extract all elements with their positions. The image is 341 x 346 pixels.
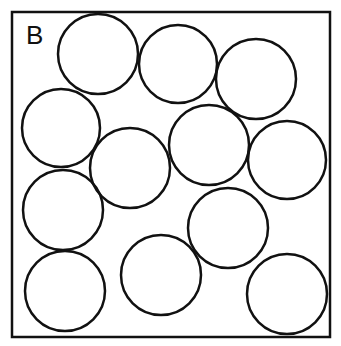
diagram-canvas [0, 0, 341, 346]
circle-8 [23, 170, 103, 250]
circle-2 [139, 25, 217, 103]
panel-label: B [26, 22, 43, 48]
circle-12 [247, 254, 327, 334]
circles-group [22, 14, 327, 334]
circle-packing-diagram: B [0, 0, 341, 346]
circle-4 [22, 89, 100, 167]
circle-9 [188, 188, 268, 268]
circle-7 [248, 121, 326, 199]
circle-6 [90, 128, 170, 208]
circle-3 [216, 39, 296, 119]
circle-10 [121, 235, 201, 315]
circle-1 [58, 14, 138, 94]
circle-11 [25, 251, 105, 331]
circle-5 [169, 105, 249, 185]
